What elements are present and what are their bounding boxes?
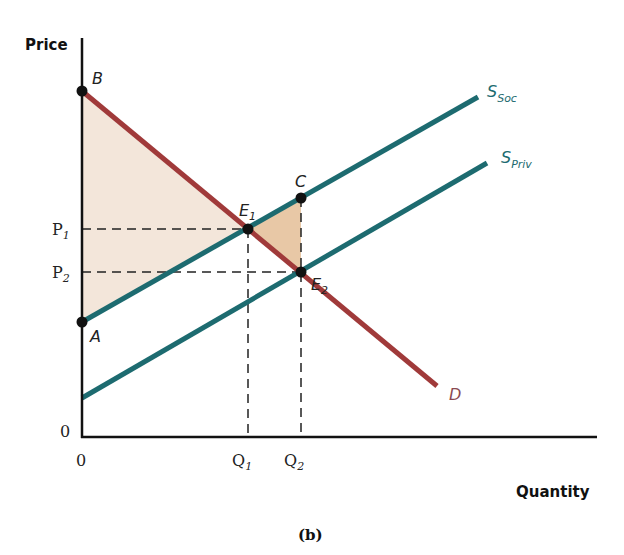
externality-diagram: Price Quantity 0 0 P1 P2 Q1 Q2 B A C E1 …	[0, 0, 624, 555]
point-c	[296, 193, 307, 204]
q1-label: Q1	[232, 451, 252, 473]
label-c: C	[295, 172, 307, 191]
point-e2	[296, 267, 307, 278]
label-b: B	[92, 69, 103, 88]
label-a: A	[89, 327, 101, 346]
y-axis-title: Price	[25, 36, 68, 54]
y-origin-label: 0	[60, 422, 70, 441]
figure-caption: (b)	[298, 526, 323, 544]
point-a	[77, 317, 88, 328]
p2-label: P2	[52, 263, 70, 285]
label-demand: D	[449, 385, 461, 404]
q2-label: Q2	[284, 451, 304, 473]
x-origin-label: 0	[76, 451, 86, 470]
label-social-supply: SSoc	[487, 82, 517, 105]
label-e1: E1	[239, 201, 256, 223]
point-b	[77, 86, 88, 97]
x-axis-title: Quantity	[516, 483, 590, 501]
p1-label: P1	[52, 220, 70, 242]
label-e2: E2	[311, 275, 328, 297]
label-private-supply: SPriv	[501, 148, 532, 171]
point-e1	[243, 224, 254, 235]
